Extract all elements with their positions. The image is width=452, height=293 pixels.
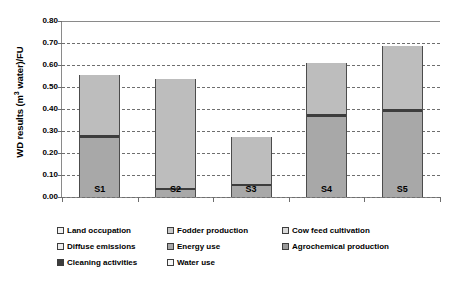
y-tick-mark <box>58 175 62 176</box>
legend-swatch-icon <box>57 243 64 250</box>
legend-label: Energy use <box>177 242 220 251</box>
legend-item[interactable]: Water use <box>167 258 215 267</box>
legend-label: Land occupation <box>67 226 131 235</box>
chart-legend: Land occupationFodder productionCow feed… <box>0 226 452 286</box>
bar-segment <box>156 79 195 188</box>
x-tick-label-s2: S2 <box>145 184 205 194</box>
y-tick-label: 0.40 <box>32 105 58 113</box>
legend-item[interactable]: Land occupation <box>57 226 131 235</box>
plot-area: WD results (m3 water)/FU 0.000.100.200.3… <box>0 0 452 215</box>
y-tick-label: 0.10 <box>32 171 58 179</box>
x-tick-mark <box>364 197 365 202</box>
legend-swatch-icon <box>167 227 174 234</box>
gridline <box>62 21 440 22</box>
x-tick-label-s5: S5 <box>372 184 432 194</box>
x-tick-label-s1: S1 <box>70 184 130 194</box>
y-tick-mark <box>58 153 62 154</box>
legend-item[interactable]: Energy use <box>167 242 220 251</box>
y-tick-mark <box>58 43 62 44</box>
y-tick-mark <box>58 131 62 132</box>
bar-s2[interactable] <box>155 79 196 197</box>
bar-segment <box>307 114 346 117</box>
x-tick-mark <box>138 197 139 202</box>
legend-label: Diffuse emissions <box>67 242 135 251</box>
x-tick-label-s3: S3 <box>221 184 281 194</box>
y-tick-label: 0.50 <box>32 83 58 91</box>
x-tick-mark <box>440 197 441 202</box>
legend-swatch-icon <box>57 259 64 266</box>
gridline <box>62 43 440 44</box>
legend-swatch-icon <box>282 227 289 234</box>
y-tick-mark <box>58 109 62 110</box>
x-tick-label-s4: S4 <box>297 184 357 194</box>
legend-label: Water use <box>177 258 215 267</box>
x-tick-mark <box>289 197 290 202</box>
bar-segment <box>80 75 119 135</box>
x-tick-mark <box>213 197 214 202</box>
bar-s1[interactable] <box>79 75 120 197</box>
axes <box>62 21 440 197</box>
legend-swatch-icon <box>282 243 289 250</box>
y-tick-mark <box>58 65 62 66</box>
legend-item[interactable]: Cow feed cultivation <box>282 226 370 235</box>
legend-label: Cleaning activities <box>67 258 137 267</box>
gridline <box>62 197 440 198</box>
y-tick-label: 0.70 <box>32 39 58 47</box>
y-axis-title: WD results (m3 water)/FU <box>13 7 25 197</box>
bar-segment <box>80 135 119 138</box>
y-tick-label: 0.20 <box>32 149 58 157</box>
x-tick-mark <box>62 197 63 202</box>
bar-segment <box>232 137 271 184</box>
bar-segment <box>307 63 346 114</box>
y-tick-label: 0.00 <box>32 193 58 201</box>
bar-s4[interactable] <box>306 63 347 197</box>
legend-item[interactable]: Agrochemical production <box>282 242 389 251</box>
water-depletion-stacked-bar-chart: WD results (m3 water)/FU 0.000.100.200.3… <box>0 0 452 293</box>
y-tick-label: 0.80 <box>32 17 58 25</box>
legend-item[interactable]: Cleaning activities <box>57 258 137 267</box>
y-tick-label: 0.30 <box>32 127 58 135</box>
legend-swatch-icon <box>57 227 64 234</box>
bar-segment <box>383 46 422 109</box>
legend-swatch-icon <box>167 259 174 266</box>
y-axis-tick-labels: 0.000.100.200.300.400.500.600.700.80 <box>30 0 58 215</box>
legend-label: Cow feed cultivation <box>292 226 370 235</box>
legend-item[interactable]: Fodder production <box>167 226 248 235</box>
legend-swatch-icon <box>167 243 174 250</box>
bar-s5[interactable] <box>382 46 423 197</box>
y-tick-label: 0.60 <box>32 61 58 69</box>
legend-label: Fodder production <box>177 226 248 235</box>
bar-segment <box>383 109 422 112</box>
legend-item[interactable]: Diffuse emissions <box>57 242 135 251</box>
y-tick-mark <box>58 87 62 88</box>
legend-label: Agrochemical production <box>292 242 389 251</box>
y-tick-mark <box>58 21 62 22</box>
